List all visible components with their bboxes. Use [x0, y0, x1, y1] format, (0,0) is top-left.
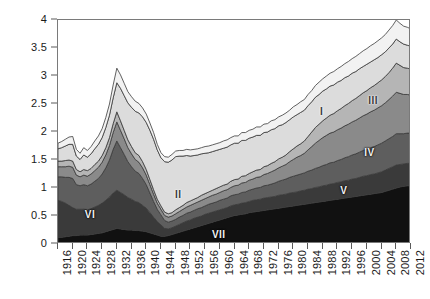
x-tick-label: 1992 [340, 250, 352, 275]
x-tick-label: 1936 [135, 250, 147, 275]
x-tick-mark [189, 243, 190, 249]
x-tick-label: 1948 [179, 250, 191, 275]
x-tick-mark [292, 243, 293, 249]
x-tick-mark [410, 243, 411, 249]
x-tick-mark [57, 243, 58, 249]
x-tick-mark [86, 243, 87, 249]
x-tick-label: 2000 [370, 250, 382, 275]
x-tick-label: 1996 [355, 250, 367, 275]
x-axis: 1916192019241928193219361940194419481952… [0, 0, 430, 299]
x-tick-mark [248, 243, 249, 249]
x-tick-mark [234, 243, 235, 249]
x-tick-label: 1956 [208, 250, 220, 275]
x-tick-mark [72, 243, 73, 249]
x-tick-mark [336, 243, 337, 249]
x-tick-mark [278, 243, 279, 249]
x-tick-label: 1940 [149, 250, 161, 275]
x-tick-mark [175, 243, 176, 249]
x-tick-mark [263, 243, 264, 249]
x-tick-mark [160, 243, 161, 249]
x-tick-label: 1924 [90, 250, 102, 275]
x-tick-label: 1984 [311, 250, 323, 275]
x-tick-label: 1960 [223, 250, 235, 275]
x-tick-mark [116, 243, 117, 249]
x-tick-label: 1980 [296, 250, 308, 275]
x-tick-mark [131, 243, 132, 249]
x-tick-label: 1916 [61, 250, 73, 275]
x-tick-label: 1968 [252, 250, 264, 275]
x-tick-mark [366, 243, 367, 249]
x-tick-mark [307, 243, 308, 249]
x-tick-mark [351, 243, 352, 249]
x-tick-label: 2012 [414, 250, 426, 275]
x-tick-label: 1944 [164, 250, 176, 275]
x-tick-mark [101, 243, 102, 249]
x-tick-mark [381, 243, 382, 249]
x-tick-label: 1920 [76, 250, 88, 275]
x-tick-mark [204, 243, 205, 249]
x-tick-label: 2004 [385, 250, 397, 275]
x-tick-mark [395, 243, 396, 249]
x-tick-mark [322, 243, 323, 249]
x-tick-mark [219, 243, 220, 249]
x-tick-label: 1988 [326, 250, 338, 275]
x-tick-mark [145, 243, 146, 249]
x-tick-label: 1972 [267, 250, 279, 275]
x-tick-label: 2008 [399, 250, 411, 275]
x-tick-label: 1964 [238, 250, 250, 275]
x-tick-label: 1952 [193, 250, 205, 275]
stacked-area-chart: 00.511.522.533.54 VIIVIVIVIIIIII 1916192… [0, 0, 430, 299]
x-tick-label: 1932 [120, 250, 132, 275]
x-tick-label: 1928 [105, 250, 117, 275]
x-tick-label: 1976 [282, 250, 294, 275]
